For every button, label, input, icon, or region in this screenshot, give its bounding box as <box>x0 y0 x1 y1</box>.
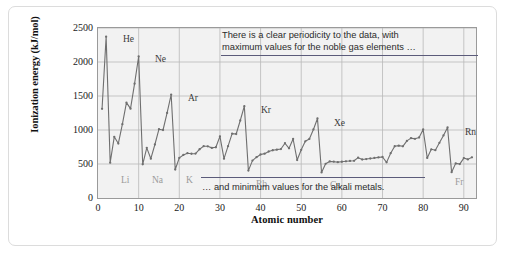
y-tick-1500: 1500 <box>57 91 93 101</box>
annotation-bottom: … and minimum values for the alkali meta… <box>202 182 384 194</box>
figure-frame: Ionization energy (kJ/mol) 0500100015002… <box>8 6 497 246</box>
y-axis-title: Ionization energy (kJ/mol) <box>29 5 40 145</box>
y-tick-2000: 2000 <box>57 57 93 67</box>
figure-page: Ionization energy (kJ/mol) 0500100015002… <box>0 0 505 262</box>
x-axis-title: Atomic number <box>97 214 477 225</box>
point-label-xe: Xe <box>334 119 345 129</box>
annotation-top-underline <box>221 55 478 56</box>
x-tick-30: 30 <box>200 203 240 213</box>
point-label-ar: Ar <box>188 94 198 104</box>
annotation-top: There is a clear periodicity to the data… <box>222 30 416 53</box>
x-tick-90: 90 <box>444 203 484 213</box>
y-tick-1000: 1000 <box>57 125 93 135</box>
x-tick-40: 40 <box>241 203 281 213</box>
y-tick-0: 0 <box>57 193 93 203</box>
y-axis-tick-labels: 05001000150020002500 <box>53 27 93 199</box>
annotation-top-line1: There is a clear periodicity to the data… <box>222 30 416 42</box>
x-tick-80: 80 <box>403 203 443 213</box>
y-tick-2500: 2500 <box>57 23 93 33</box>
point-label-rn: Rn <box>465 128 476 138</box>
point-label-fr: Fr <box>455 178 463 188</box>
annotation-top-line2: maximum values for the noble gas element… <box>222 42 416 54</box>
point-label-he: He <box>123 35 134 45</box>
annotation-bottom-underline <box>201 177 425 178</box>
x-tick-0: 0 <box>78 203 118 213</box>
x-tick-10: 10 <box>119 203 159 213</box>
x-tick-50: 50 <box>281 203 321 213</box>
x-tick-60: 60 <box>322 203 362 213</box>
point-label-na: Na <box>152 176 163 186</box>
point-label-k: K <box>186 176 193 186</box>
point-label-li: Li <box>121 176 129 186</box>
point-label-ne: Ne <box>155 55 166 65</box>
x-tick-20: 20 <box>159 203 199 213</box>
point-label-kr: Kr <box>261 106 271 116</box>
y-tick-500: 500 <box>57 159 93 169</box>
x-tick-70: 70 <box>363 203 403 213</box>
